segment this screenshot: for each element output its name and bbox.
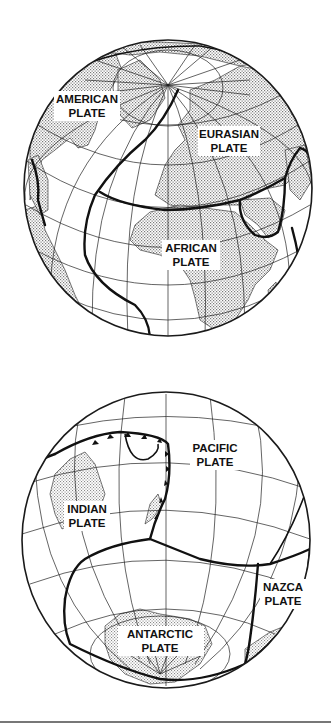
plate-label-pacific: PACIFIC PLATE: [190, 440, 240, 470]
land-southeast-asia: [25, 412, 60, 484]
new-hebrides-trench: [125, 434, 158, 460]
svg-text:PLATE: PLATE: [173, 256, 210, 268]
plate-label-indian: INDIAN PLATE: [64, 501, 110, 531]
plate-label-eurasian: EURASIAN PLATE: [198, 126, 260, 156]
svg-text:PLATE: PLATE: [211, 142, 248, 154]
svg-text:PLATE: PLATE: [69, 517, 106, 529]
svg-text:PLATE: PLATE: [142, 642, 179, 654]
svg-text:EURASIAN: EURASIAN: [199, 128, 259, 140]
plate-label-antarctic: ANTARCTIC PLATE: [118, 626, 204, 656]
svg-text:PLATE: PLATE: [265, 595, 302, 607]
svg-text:PLATE: PLATE: [69, 107, 106, 119]
java-trench: [24, 404, 55, 504]
southern-hemisphere-globe: PACIFIC PLATE INDIAN PLATE NAZCA PLATE A…: [0, 364, 331, 724]
svg-text:PLATE: PLATE: [197, 456, 234, 468]
svg-text:INDIAN: INDIAN: [67, 503, 107, 515]
svg-text:AFRICAN: AFRICAN: [165, 242, 217, 254]
svg-text:ANTARCTIC: ANTARCTIC: [127, 628, 193, 640]
plate-label-american: AMERICAN PLATE: [54, 91, 120, 121]
svg-text:NAZCA: NAZCA: [263, 581, 303, 593]
land-central-america: [25, 205, 85, 330]
bottom-divider-rule: [0, 721, 331, 723]
plate-label-african: AFRICAN PLATE: [162, 240, 220, 270]
plate-label-nazca: NAZCA PLATE: [260, 579, 306, 609]
northern-hemisphere-globe: AMERICAN PLATE EURASIAN PLATE AFRICAN PL…: [0, 0, 331, 364]
svg-text:PACIFIC: PACIFIC: [192, 442, 237, 454]
svg-text:AMERICAN: AMERICAN: [56, 93, 118, 105]
